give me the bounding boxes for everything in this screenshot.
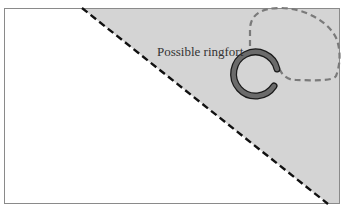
ringfort-label: Possible ringfort <box>157 44 244 59</box>
diagram: Possible ringfort <box>0 0 343 210</box>
